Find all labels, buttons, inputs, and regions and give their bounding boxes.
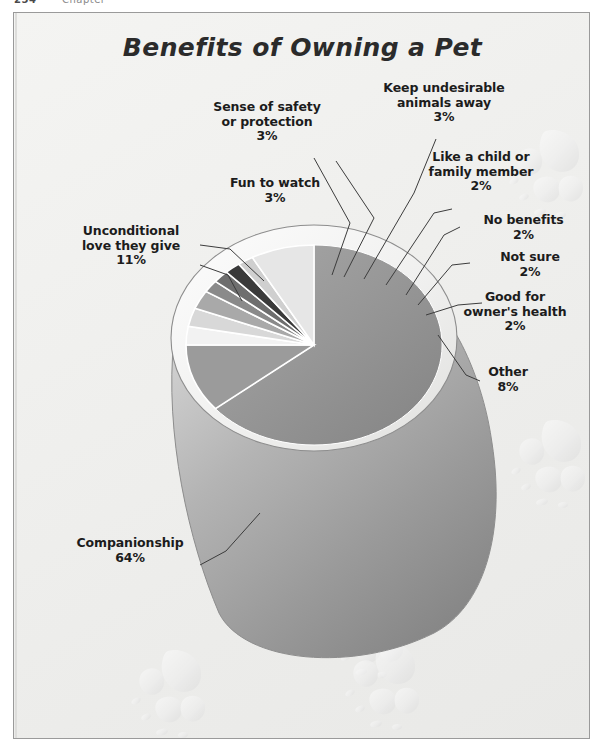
- page-number-fragment: 254: [14, 0, 36, 5]
- pie-label-sense-of-safety: Sense of safety or protection 3%: [197, 100, 337, 144]
- pie-label-owners-health: Good for owner's health 2%: [442, 290, 588, 334]
- pie-label-fun-to-watch: Fun to watch 3%: [210, 176, 340, 205]
- pie-label-like-a-child: Like a child or family member 2%: [406, 150, 556, 194]
- pie-label-companionship: Companionship 64%: [50, 536, 210, 565]
- pie-label-not-sure: Not sure 2%: [474, 250, 586, 279]
- chart-frame: Benefits of Owning a Pet: [13, 12, 590, 739]
- pie-label-unconditional-love: Unconditional love they give 11%: [62, 224, 200, 268]
- pie-label-keep-animals-away: Keep undesirable animals away 3%: [369, 81, 519, 125]
- pie-slices: [186, 245, 442, 445]
- pie-label-no-benefits: No benefits 2%: [461, 213, 586, 242]
- page-chapter-fragment: Chapter: [62, 0, 105, 5]
- page-header-sliver: 254 Chapter: [0, 0, 605, 9]
- pie-label-other: Other 8%: [462, 365, 554, 394]
